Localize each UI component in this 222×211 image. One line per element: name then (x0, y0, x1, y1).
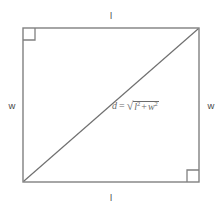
diagonal-line (24, 29, 199, 182)
right-angle-marker-top-left (23, 28, 35, 40)
formula-equals-sign: = (119, 101, 125, 111)
formula-radical: √ l2+w2 (127, 101, 159, 113)
diagonal-formula: d = √ l2+w2 (112, 101, 159, 113)
rectangle-diagonal-diagram: l l w w d = √ l2+w2 (0, 0, 222, 211)
label-length-bottom: l (0, 193, 222, 203)
formula-term-width: w (148, 101, 155, 112)
formula-term-width-exponent: 2 (155, 100, 158, 107)
formula-variable-d: d (112, 101, 117, 111)
formula-term-length-exponent: 2 (137, 100, 140, 107)
right-angle-marker-bottom-right (187, 170, 199, 182)
formula-plus-operator: + (141, 101, 147, 112)
label-width-right: w (203, 101, 219, 111)
label-length-top: l (0, 11, 222, 21)
square-root-icon: √ (127, 100, 134, 112)
diagram-canvas (0, 0, 222, 211)
formula-radicand: l2+w2 (133, 101, 159, 112)
label-width-left: w (4, 101, 20, 111)
